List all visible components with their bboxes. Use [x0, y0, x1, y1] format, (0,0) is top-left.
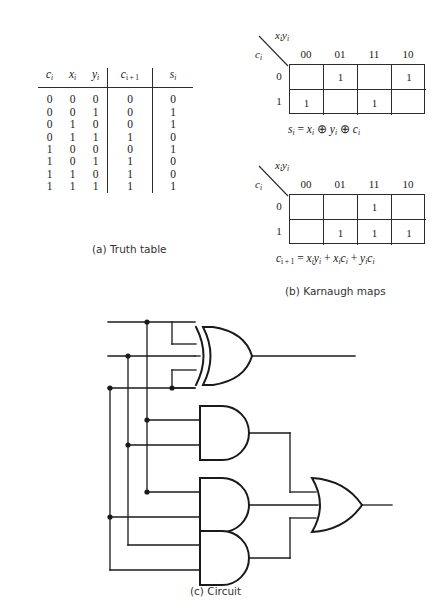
cell-si: 1 — [153, 118, 194, 130]
cell-si: 1 — [153, 143, 194, 155]
sum-kmap-cell-r0c3: 1 — [392, 65, 426, 90]
cell-ci: 0 — [38, 88, 61, 106]
cell-cout: 0 — [108, 118, 153, 130]
or-gate — [312, 478, 362, 532]
sum-kmap-colhdr-3: 10 — [391, 48, 425, 60]
sum-kmap-colhdr-2: 11 — [357, 48, 391, 60]
caption-b: (b) Karnaugh maps — [285, 285, 386, 297]
cell-ci: 1 — [38, 180, 61, 192]
sum-kmap-cell-r1c0: 1 — [290, 90, 324, 115]
carry-kmap-colhdr-0: 00 — [289, 178, 323, 190]
cell-cout: 1 — [108, 180, 153, 192]
circuit-diagram: xi yi ci si ci + 1 — [0, 300, 433, 590]
cell-cout: 0 — [108, 106, 153, 118]
cell-yi: 1 — [84, 106, 108, 118]
sum-equation: si = xi ⊕ yi ⊕ ci — [288, 122, 360, 137]
cell-si: 0 — [153, 131, 194, 143]
cell-ci: 0 — [38, 106, 61, 118]
cell-cout: 0 — [108, 143, 153, 155]
column-header-yi: yi — [84, 68, 108, 88]
cell-ci: 1 — [38, 168, 61, 180]
circuit-svg — [0, 300, 433, 590]
carry-kmap-cell-r0c1 — [324, 195, 358, 220]
cell-si: 0 — [153, 88, 194, 106]
table-row: 00101 — [38, 106, 193, 118]
cell-xi: 0 — [61, 106, 84, 118]
truth-table-header: ci xi yi ci + 1 si — [38, 68, 193, 88]
carry-kmap-cell-r0c3 — [392, 195, 426, 220]
carry-kmap-cell-r1c3: 1 — [392, 220, 426, 245]
cell-si: 0 — [153, 168, 194, 180]
caption-c: (c) Circuit — [190, 585, 241, 597]
cell-ci: 1 — [38, 143, 61, 155]
junction-dot — [144, 319, 149, 324]
cell-xi: 0 — [61, 155, 84, 167]
cell-yi: 1 — [84, 155, 108, 167]
sum-kmap-cell-r1c3 — [392, 90, 426, 115]
carry-kmap-colhdr-2: 11 — [357, 178, 391, 190]
junction-dot — [107, 385, 112, 390]
xor-gate-body — [203, 327, 252, 385]
table-row: 11111 — [38, 180, 193, 192]
cell-xi: 1 — [61, 168, 84, 180]
carry-kmap-cell-r0c0 — [290, 195, 324, 220]
sum-kmap-colhdr-1: 01 — [323, 48, 357, 60]
carry-kmap-cell-r1c1: 1 — [324, 220, 358, 245]
column-header-cout: ci + 1 — [108, 68, 153, 88]
table-row: 11010 — [38, 168, 193, 180]
sum-kmap-row-var: ci — [255, 48, 262, 62]
sum-kmap-cell-r0c1: 1 — [324, 65, 358, 90]
cell-yi: 0 — [84, 88, 108, 106]
junction-dot — [144, 489, 149, 494]
table-row: 00000 — [38, 88, 193, 106]
cell-cout: 1 — [108, 168, 153, 180]
cell-yi: 0 — [84, 168, 108, 180]
sum-kmap: xiyi ci 00 01 11 10 0 1 1111 — [255, 28, 430, 118]
junction-dot — [107, 514, 112, 519]
sum-kmap-rowhdr-1: 1 — [271, 95, 287, 107]
cell-xi: 0 — [61, 143, 84, 155]
column-header-xi: xi — [61, 68, 84, 88]
carry-kmap-rowhdr-1: 1 — [271, 225, 287, 237]
truth-table: ci xi yi ci + 1 si 000000010101001011101… — [38, 68, 193, 193]
cell-ci: 1 — [38, 155, 61, 167]
cell-yi: 0 — [84, 118, 108, 130]
carry-kmap-cell-r1c2: 1 — [358, 220, 392, 245]
sum-kmap-col-var: xiyi — [275, 29, 289, 43]
cell-yi: 1 — [84, 131, 108, 143]
table-row: 01110 — [38, 131, 193, 143]
cell-cout: 1 — [108, 131, 153, 143]
caption-a: (a) Truth table — [92, 243, 167, 255]
sum-kmap-grid: 1111 — [289, 64, 425, 114]
cell-cout: 1 — [108, 155, 153, 167]
cell-ci: 0 — [38, 118, 61, 130]
cell-cout: 0 — [108, 88, 153, 106]
and-gate-1 — [200, 406, 249, 460]
cell-si: 1 — [153, 106, 194, 118]
cell-yi: 0 — [84, 143, 108, 155]
sum-kmap-colhdr-0: 00 — [289, 48, 323, 60]
carry-kmap: xiyi ci 00 01 11 10 0 1 1111 — [255, 158, 430, 248]
cell-xi: 0 — [61, 88, 84, 106]
carry-kmap-cell-r1c0 — [290, 220, 324, 245]
carry-kmap-colhdr-1: 01 — [323, 178, 357, 190]
cell-xi: 1 — [61, 118, 84, 130]
cell-xi: 1 — [61, 131, 84, 143]
carry-kmap-cell-r0c2: 1 — [358, 195, 392, 220]
junction-dot — [144, 417, 149, 422]
junction-dot — [125, 353, 130, 358]
sum-kmap-cell-r0c0 — [290, 65, 324, 90]
table-header-row: ci xi yi ci + 1 si — [38, 68, 193, 88]
sum-kmap-cell-r1c2: 1 — [358, 90, 392, 115]
truth-table-body: 0000000101010010111010001101101101011111 — [38, 88, 193, 193]
truth-table-grid: ci xi yi ci + 1 si 000000010101001011101… — [38, 68, 193, 193]
carry-equation: ci + 1 = xiyi + xici + yici — [276, 252, 375, 266]
carry-kmap-row-var: ci — [255, 178, 262, 192]
table-row: 01001 — [38, 118, 193, 130]
and-gate-3 — [200, 531, 249, 585]
column-header-si: si — [153, 68, 194, 88]
carry-kmap-col-var: xiyi — [275, 159, 289, 173]
sum-kmap-cell-r0c2 — [358, 65, 392, 90]
cell-xi: 1 — [61, 180, 84, 192]
table-row: 10110 — [38, 155, 193, 167]
